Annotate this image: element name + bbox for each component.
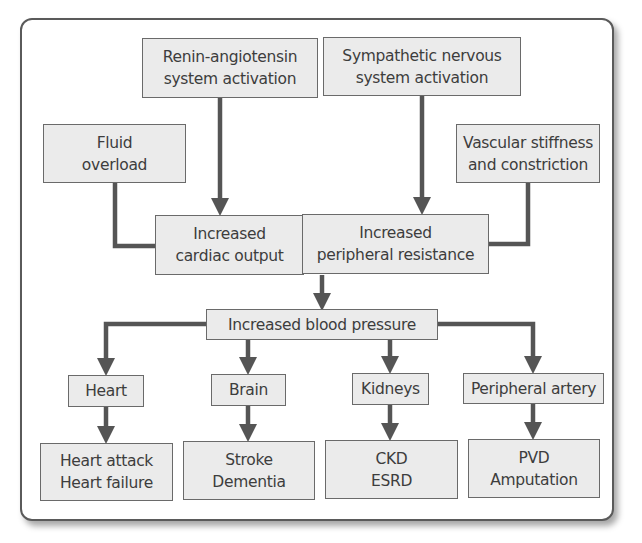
organ-brain-box: Brain [211,374,286,406]
vascular-stiffness-box: Vascular stiffness and constriction [456,124,600,183]
outcome-kidneys-label: CKD ESRD [371,448,412,492]
outcome-heart-box: Heart attack Heart failure [40,443,173,501]
outcome-peripheral-artery-label: PVD Amputation [490,447,578,491]
organ-heart-box: Heart [68,375,144,407]
outcome-brain-box: Stroke Dementia [183,441,315,500]
outcome-brain-label: Stroke Dementia [212,449,285,493]
outcome-kidneys-box: CKD ESRD [325,440,458,499]
sympathetic-nervous-box: Sympathetic nervous system activation [323,37,521,96]
organ-kidneys-label: Kidneys [361,378,420,400]
organ-kidneys-box: Kidneys [352,373,429,405]
fluid-overload-label: Fluid overload [82,132,147,176]
cardiac-output-box: Increased cardiac output [155,215,304,275]
vascular-stiffness-label: Vascular stiffness and constriction [463,132,593,176]
renin-angiotensin-box: Renin-angiotensin system activation [142,38,318,98]
organ-peripheral-artery-box: Peripheral artery [463,373,604,404]
sympathetic-nervous-label: Sympathetic nervous system activation [342,45,501,89]
blood-pressure-label: Increased blood pressure [228,314,416,336]
organ-peripheral-artery-label: Peripheral artery [471,378,596,400]
organ-brain-label: Brain [229,379,268,401]
renin-angiotensin-label: Renin-angiotensin system activation [163,46,298,90]
outcome-heart-label: Heart attack Heart failure [60,450,153,494]
blood-pressure-box: Increased blood pressure [206,309,438,340]
outcome-peripheral-artery-box: PVD Amputation [468,439,600,498]
organ-heart-label: Heart [85,380,127,402]
fluid-overload-box: Fluid overload [43,124,186,183]
cardiac-output-label: Increased cardiac output [175,223,283,267]
peripheral-resistance-label: Increased peripheral resistance [317,222,475,266]
peripheral-resistance-box: Increased peripheral resistance [302,214,489,274]
